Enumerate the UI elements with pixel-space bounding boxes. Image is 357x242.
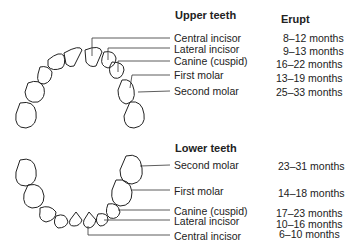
upper-erupt-value: 13–19 months (276, 73, 343, 84)
upper-erupt-value: 8–12 months (283, 33, 344, 44)
erupt-heading: Erupt (281, 14, 310, 25)
upper-tooth-name: Second molar (174, 86, 239, 97)
upper-tooth-name: Central incisor (174, 33, 241, 44)
upper-erupt-value: 9–13 months (283, 46, 344, 57)
lower-erupt-value: 6–10 months (279, 229, 340, 240)
upper-tooth-name: Lateral incisor (174, 44, 239, 55)
lower-tooth-name: Central incisor (174, 231, 241, 242)
upper-left-central-incisor (64, 48, 82, 67)
upper-erupt-value: 16–22 months (276, 59, 343, 70)
lower-tooth-name: Second molar (174, 160, 239, 171)
lower-tooth-name: Lateral incisor (174, 216, 239, 227)
upper-teeth-heading: Upper teeth (175, 10, 236, 21)
lower-teeth-heading: Lower teeth (175, 143, 237, 154)
lower-tooth-name: First molar (174, 186, 224, 197)
upper-tooth-name: Canine (cuspid) (174, 56, 248, 67)
upper-erupt-value: 25–33 months (276, 87, 343, 98)
lower-erupt-value: 23–31 months (278, 161, 345, 172)
lower-erupt-value: 17–23 months (276, 208, 343, 219)
leader-lines (88, 38, 170, 235)
lower-erupt-value: 14–18 months (278, 188, 345, 199)
upper-tooth-name: First molar (174, 70, 224, 81)
